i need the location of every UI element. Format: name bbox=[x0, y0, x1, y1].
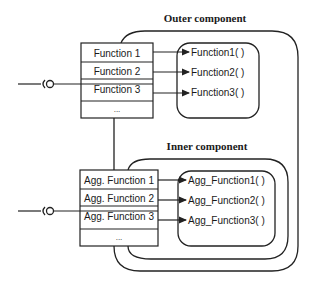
inner-function-name: Agg_Function3( ) bbox=[188, 215, 265, 226]
outer-interface-row-ellipsis: ... bbox=[114, 105, 121, 114]
outer-function-name: Function3( ) bbox=[191, 87, 244, 98]
inner-interface-row: Agg. Function 3 bbox=[84, 211, 154, 222]
outer-interface-row: Function 2 bbox=[94, 66, 141, 77]
inner-interface-row: Agg. Function 2 bbox=[84, 193, 154, 204]
inner-function-name: Agg_Function1( ) bbox=[188, 175, 265, 186]
outer-function-name: Function1( ) bbox=[191, 47, 244, 58]
component-diagram: Outer component Function 1 Function 2 Fu… bbox=[0, 0, 314, 286]
outer-component-label: Outer component bbox=[164, 12, 247, 24]
outer-interface-table: Function 1 Function 2 Function 3 ... bbox=[81, 43, 153, 118]
outer-interface-row: Function 3 bbox=[94, 84, 141, 95]
inner-component-label: Inner component bbox=[167, 140, 248, 152]
inner-interface-row: Agg. Function 1 bbox=[84, 175, 154, 186]
outer-function-name: Function2( ) bbox=[191, 67, 244, 78]
inner-function-name: Agg_Function2( ) bbox=[188, 195, 265, 206]
inner-interface-table: Agg. Function 1 Agg. Function 2 Agg. Fun… bbox=[80, 170, 158, 246]
outer-interface-socket bbox=[18, 80, 54, 88]
outer-interface-row: Function 1 bbox=[94, 48, 141, 59]
inner-interface-row-ellipsis: ... bbox=[116, 233, 123, 242]
inner-interface-socket bbox=[18, 207, 54, 215]
